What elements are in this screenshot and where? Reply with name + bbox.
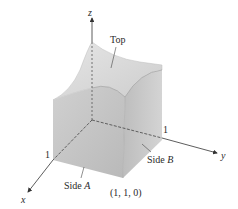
y-tick-1: 1 [163,124,168,135]
x-axis-label: x [20,194,26,205]
side-a-leader [81,167,84,178]
side-b-label: Side B [147,154,173,165]
z-axis-label: z [87,7,92,18]
corner-point-label: (1, 1, 0) [110,187,142,199]
top-label: Top [110,34,125,45]
solid-diagram: z y x 1 1 Top Side A Side B (1, 1, 0) [0,0,238,209]
x-tick-1: 1 [45,149,50,160]
y-axis-label: y [220,150,226,161]
x-axis [28,160,53,192]
y-axis [162,138,217,153]
side-a-face [53,86,125,178]
side-a-label: Side A [64,180,91,191]
